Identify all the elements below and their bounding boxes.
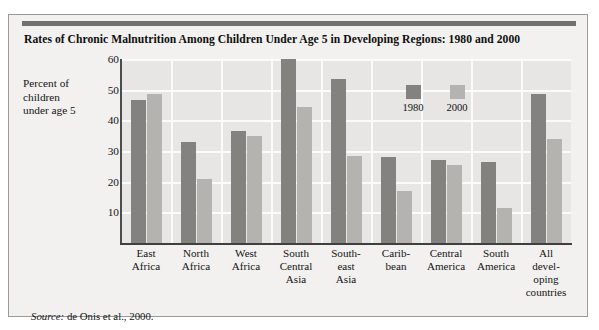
- legend-label-1980: 1980: [393, 102, 433, 113]
- y-axis-tick-label: 20: [93, 176, 119, 188]
- gridline-vertical: [221, 59, 223, 243]
- x-axis-tick-label: Carib-bean: [371, 247, 421, 273]
- bar-2000: [147, 94, 162, 243]
- x-axis-tick-label-line: east: [321, 260, 371, 273]
- bar-2000: [197, 179, 212, 243]
- x-axis-tick-label-line: South-: [321, 247, 371, 260]
- bar-2000: [297, 107, 312, 243]
- bar-group: [481, 59, 512, 243]
- gridline-vertical: [271, 59, 273, 243]
- x-axis-tick-label-line: Asia: [271, 273, 321, 286]
- bar-2000: [397, 191, 412, 243]
- x-axis-tick-label: SouthAmerica: [471, 247, 521, 273]
- y-axis-line: [120, 59, 122, 245]
- bar-group: [531, 59, 562, 243]
- bar-group: [331, 59, 362, 243]
- x-axis-tick-label-line: All: [521, 247, 571, 260]
- gridline-vertical: [521, 59, 523, 243]
- bar-1980: [131, 100, 146, 243]
- bar-2000: [247, 136, 262, 243]
- x-axis-tick-label-line: South: [271, 247, 321, 260]
- figure-panel: Rates of Chronic Malnutrition Among Chil…: [8, 14, 588, 317]
- bar-2000: [547, 139, 562, 243]
- bar-1980: [231, 131, 246, 243]
- y-axis-tick-label: 40: [93, 114, 119, 126]
- legend-label-2000: 2000: [437, 102, 477, 113]
- y-axis-tick-label: 10: [93, 206, 119, 218]
- x-axis-tick-label-line: America: [471, 260, 521, 273]
- x-axis-tick-label-line: America: [421, 260, 471, 273]
- legend-item-2000: 2000: [437, 85, 477, 113]
- bar-2000: [497, 208, 512, 243]
- x-axis-tick-label: NorthAfrica: [171, 247, 221, 273]
- bar-group: [181, 59, 212, 243]
- gridline-vertical: [321, 59, 323, 243]
- gridline-vertical: [371, 59, 373, 243]
- y-axis-tick-label: 60: [93, 53, 119, 65]
- legend-swatch-2000: [450, 85, 465, 99]
- x-axis-tick-label-line: oping: [521, 273, 571, 286]
- bar-1980: [331, 79, 346, 243]
- x-axis-tick-label-line: Asia: [321, 273, 371, 286]
- x-axis-tick-labels: EastAfricaNorthAfricaWestAfricaSouthCent…: [121, 247, 571, 311]
- legend-item-1980: 1980: [393, 85, 433, 113]
- gridline-vertical: [171, 59, 173, 243]
- x-axis-tick-label: WestAfrica: [221, 247, 271, 273]
- x-axis-tick-label-line: South: [471, 247, 521, 260]
- y-axis-tick-labels: 102030405060: [89, 15, 119, 330]
- legend-swatch-1980: [406, 85, 421, 99]
- x-axis-tick-label-line: Carib-: [371, 247, 421, 260]
- x-axis-tick-label-line: Africa: [171, 260, 221, 273]
- x-axis-tick-label-line: countries: [521, 286, 571, 299]
- bar-2000: [347, 156, 362, 243]
- x-axis-line: [120, 243, 572, 245]
- y-axis-tick-label: 30: [93, 145, 119, 157]
- y-axis-tick-label: 50: [93, 84, 119, 96]
- source-text: de Onis et al., 2000.: [64, 310, 153, 322]
- x-axis-tick-label-line: East: [121, 247, 171, 260]
- x-axis-tick-label-line: West: [221, 247, 271, 260]
- bar-1980: [381, 157, 396, 243]
- bar-group: [231, 59, 262, 243]
- bar-1980: [531, 94, 546, 243]
- x-axis-tick-label: EastAfrica: [121, 247, 171, 273]
- source-note: Source: de Onis et al., 2000.: [31, 310, 154, 322]
- x-axis-tick-label-line: Africa: [121, 260, 171, 273]
- chart-legend: 19802000: [393, 85, 477, 119]
- x-axis-tick-label: South-eastAsia: [321, 247, 371, 286]
- bar-1980: [281, 59, 296, 243]
- x-axis-tick-label-line: Africa: [221, 260, 271, 273]
- bar-2000: [447, 165, 462, 243]
- x-axis-tick-label-line: devel-: [521, 260, 571, 273]
- x-axis-tick-label-line: Central: [271, 260, 321, 273]
- x-axis-tick-label-line: bean: [371, 260, 421, 273]
- bar-1980: [481, 162, 496, 243]
- x-axis-tick-label-line: Central: [421, 247, 471, 260]
- bar-group: [281, 59, 312, 243]
- bar-1980: [181, 142, 196, 243]
- plot-area: [121, 59, 571, 243]
- x-axis-tick-label: SouthCentralAsia: [271, 247, 321, 286]
- x-axis-tick-label: CentralAmerica: [421, 247, 471, 273]
- bar-1980: [431, 160, 446, 243]
- plot-region: [121, 59, 571, 243]
- x-axis-tick-label-line: North: [171, 247, 221, 260]
- bar-group: [131, 59, 162, 243]
- source-label: Source:: [31, 310, 64, 322]
- x-axis-tick-label: Alldevel-opingcountries: [521, 247, 571, 299]
